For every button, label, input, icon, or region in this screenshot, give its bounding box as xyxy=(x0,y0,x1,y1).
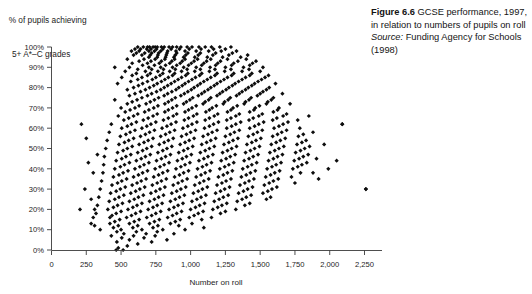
data-point xyxy=(123,110,127,114)
data-point xyxy=(155,81,159,85)
data-point xyxy=(271,157,275,161)
data-point xyxy=(136,195,140,199)
data-point xyxy=(152,128,156,132)
data-point xyxy=(207,49,211,53)
data-point xyxy=(89,197,93,201)
data-point xyxy=(253,124,257,128)
data-point xyxy=(157,142,161,146)
data-point xyxy=(209,215,213,219)
data-point xyxy=(160,126,164,130)
data-point xyxy=(245,142,249,146)
data-point xyxy=(243,203,247,207)
data-point xyxy=(202,226,206,230)
data-point xyxy=(135,98,139,102)
data-point xyxy=(241,189,245,193)
data-point xyxy=(123,69,127,73)
data-point xyxy=(170,144,174,148)
data-point xyxy=(195,167,199,171)
data-point xyxy=(200,142,204,146)
data-point xyxy=(130,61,134,65)
y-tick-label-100: 100% xyxy=(25,43,45,52)
data-point xyxy=(213,67,217,71)
data-point xyxy=(205,163,209,167)
data-point xyxy=(146,138,150,142)
data-point xyxy=(246,165,250,169)
data-point xyxy=(126,169,130,173)
x-tick-label-1000: 1,000 xyxy=(181,260,200,269)
data-point xyxy=(204,110,208,114)
data-point xyxy=(235,199,239,203)
data-point xyxy=(261,65,265,69)
data-point xyxy=(192,213,196,217)
data-point xyxy=(145,215,149,219)
data-point xyxy=(215,183,219,187)
data-point xyxy=(166,92,170,96)
data-point xyxy=(149,59,153,63)
data-point xyxy=(143,132,147,136)
data-point xyxy=(212,199,216,203)
data-point xyxy=(97,195,101,199)
data-point xyxy=(326,167,330,171)
data-point xyxy=(134,189,138,193)
data-point xyxy=(200,165,204,169)
data-point xyxy=(143,155,147,159)
data-point xyxy=(116,224,120,228)
data-point xyxy=(257,114,261,118)
data-point xyxy=(224,157,228,161)
data-point xyxy=(263,75,267,79)
data-point xyxy=(173,128,177,132)
data-point xyxy=(240,69,244,73)
data-point xyxy=(139,157,143,161)
data-point xyxy=(183,228,187,232)
data-point xyxy=(201,209,205,213)
data-point xyxy=(128,108,132,112)
data-point xyxy=(254,59,258,63)
data-point xyxy=(175,189,179,193)
data-point xyxy=(169,122,173,126)
data-point xyxy=(273,171,277,175)
data-point xyxy=(259,77,263,81)
data-point xyxy=(130,144,134,148)
data-point xyxy=(246,187,250,191)
data-point xyxy=(269,142,273,146)
data-point xyxy=(147,222,151,226)
data-point xyxy=(120,157,124,161)
data-point xyxy=(142,140,146,144)
data-point xyxy=(280,92,284,96)
data-point xyxy=(183,140,187,144)
data-point xyxy=(311,130,315,134)
data-point xyxy=(211,207,215,211)
data-point xyxy=(258,69,262,73)
y-tick-label-10: 10% xyxy=(29,225,44,234)
data-point xyxy=(120,179,124,183)
data-point xyxy=(166,83,170,87)
data-point xyxy=(154,189,158,193)
data-point xyxy=(147,130,151,134)
data-point xyxy=(227,140,231,144)
data-point xyxy=(262,183,266,187)
data-point xyxy=(278,169,282,173)
data-point xyxy=(280,130,284,134)
x-tick-label-1250: 1,250 xyxy=(216,260,235,269)
y-tick-label-90: 90% xyxy=(29,63,44,72)
data-point xyxy=(156,104,160,108)
data-point xyxy=(292,159,296,163)
data-point xyxy=(136,224,140,228)
data-point xyxy=(225,171,229,175)
data-point xyxy=(271,134,275,138)
data-point xyxy=(147,108,151,112)
data-point xyxy=(109,191,113,195)
data-point xyxy=(276,177,280,181)
data-point xyxy=(196,189,200,193)
data-point xyxy=(127,238,131,242)
data-point xyxy=(237,79,241,83)
data-point xyxy=(182,118,186,122)
data-point xyxy=(182,92,186,96)
data-point xyxy=(140,201,144,205)
data-point xyxy=(176,203,180,207)
data-point xyxy=(154,211,158,215)
data-point xyxy=(193,75,197,79)
data-point xyxy=(186,146,190,150)
data-point xyxy=(107,199,111,203)
data-point xyxy=(136,173,140,177)
